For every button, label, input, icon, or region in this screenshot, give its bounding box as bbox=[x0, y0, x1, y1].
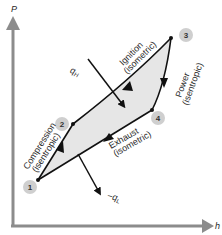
point-badge-2: 2 bbox=[55, 117, 69, 131]
point-badge-3: 3 bbox=[179, 28, 193, 42]
point-badge-1: 1 bbox=[23, 180, 37, 194]
x-axis-arrow-icon bbox=[202, 219, 214, 233]
y-axis-label: P bbox=[11, 4, 17, 14]
svg-text:1: 1 bbox=[28, 183, 33, 192]
heat-in-label: qH bbox=[69, 65, 82, 79]
y-axis-arrow-icon bbox=[6, 16, 20, 30]
power-label: Power (isentropic) bbox=[172, 58, 205, 106]
otto-cycle-diagram: P h qH −qL 1 2 3 bbox=[0, 0, 222, 235]
heat-out-arrow bbox=[78, 154, 99, 192]
svg-text:3: 3 bbox=[184, 31, 189, 40]
heat-out-label: −qL bbox=[106, 190, 122, 204]
svg-text:4: 4 bbox=[156, 114, 161, 123]
point-badge-4: 4 bbox=[151, 111, 165, 125]
svg-text:2: 2 bbox=[60, 120, 65, 129]
x-axis-label: h bbox=[215, 221, 220, 231]
